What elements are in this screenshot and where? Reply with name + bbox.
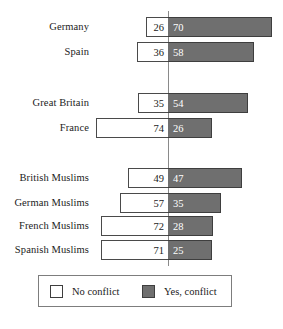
bar-value-yes-conflict: 35 (173, 194, 184, 214)
bar-segment-yes-conflict[interactable]: 58 (168, 42, 254, 62)
bar-segment-no-conflict[interactable]: 74 (96, 118, 168, 138)
bar-value-yes-conflict: 70 (173, 18, 184, 38)
row-label: Germany (0, 17, 89, 37)
bar-segment-no-conflict[interactable]: 71 (101, 240, 168, 260)
bar-segment-yes-conflict[interactable]: 28 (168, 216, 213, 236)
chart-row: Germany 26 70 (0, 17, 283, 37)
bar-value-yes-conflict: 54 (173, 94, 184, 114)
bar-group: 71 25 (101, 240, 212, 260)
bar-value-no-conflict: 71 (154, 241, 165, 261)
chart-container: Germany 26 70 Spain 36 58 Great Britain … (0, 0, 283, 329)
bar-value-no-conflict: 49 (154, 169, 165, 189)
bar-segment-yes-conflict[interactable]: 26 (168, 118, 212, 138)
chart-row: German Muslims 57 35 (0, 193, 283, 213)
bar-group: 26 70 (146, 17, 272, 37)
row-label: British Muslims (0, 168, 89, 188)
bar-value-yes-conflict: 28 (173, 217, 184, 237)
row-label: Spanish Muslims (0, 240, 89, 260)
bar-group: 49 47 (128, 168, 242, 188)
bar-value-no-conflict: 72 (154, 217, 165, 237)
bar-value-yes-conflict: 26 (173, 119, 184, 139)
bar-group: 36 58 (137, 42, 254, 62)
bar-segment-no-conflict[interactable]: 57 (120, 193, 168, 213)
bar-value-no-conflict: 35 (154, 94, 165, 114)
bar-segment-yes-conflict[interactable]: 25 (168, 240, 212, 260)
bar-segment-yes-conflict[interactable]: 70 (168, 17, 272, 37)
bar-segment-yes-conflict[interactable]: 54 (168, 93, 248, 113)
legend-item-no-conflict[interactable]: No conflict (50, 276, 120, 306)
bar-segment-yes-conflict[interactable]: 47 (168, 168, 242, 188)
chart-row: French Muslims 72 28 (0, 216, 283, 236)
bar-value-no-conflict: 57 (154, 194, 165, 214)
chart-row: France 74 26 (0, 118, 283, 138)
row-label: German Muslims (0, 193, 89, 213)
bar-segment-no-conflict[interactable]: 36 (137, 42, 168, 62)
bar-value-no-conflict: 26 (154, 18, 165, 38)
legend-swatch-no-conflict-icon (50, 285, 63, 298)
bar-value-no-conflict: 74 (154, 119, 165, 139)
bar-segment-no-conflict[interactable]: 72 (101, 216, 168, 236)
bar-value-no-conflict: 36 (154, 43, 165, 63)
chart-legend: No conflict Yes, conflict (38, 275, 232, 307)
chart-row: Great Britain 35 54 (0, 93, 283, 113)
bar-segment-yes-conflict[interactable]: 35 (168, 193, 221, 213)
legend-swatch-yes-conflict-icon (142, 285, 155, 298)
bar-group: 57 35 (120, 193, 221, 213)
row-label: Great Britain (0, 93, 89, 113)
chart-row: British Muslims 49 47 (0, 168, 283, 188)
bar-group: 35 54 (138, 93, 248, 113)
legend-item-yes-conflict[interactable]: Yes, conflict (142, 276, 217, 306)
legend-label-yes-conflict: Yes, conflict (164, 286, 217, 297)
row-label: French Muslims (0, 216, 89, 236)
bar-segment-no-conflict[interactable]: 49 (128, 168, 168, 188)
row-label: France (0, 118, 89, 138)
bar-segment-no-conflict[interactable]: 26 (146, 17, 168, 37)
bar-value-yes-conflict: 25 (173, 241, 184, 261)
chart-row: Spain 36 58 (0, 42, 283, 62)
bar-group: 74 26 (96, 118, 212, 138)
chart-row: Spanish Muslims 71 25 (0, 240, 283, 260)
legend-label-no-conflict: No conflict (72, 286, 120, 297)
row-label: Spain (0, 42, 89, 62)
bar-group: 72 28 (101, 216, 213, 236)
bar-value-yes-conflict: 58 (173, 43, 184, 63)
bar-value-yes-conflict: 47 (173, 169, 184, 189)
bar-segment-no-conflict[interactable]: 35 (138, 93, 168, 113)
